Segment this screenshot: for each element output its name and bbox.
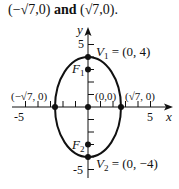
- y-tick-label-neg5: -5: [73, 163, 83, 177]
- v1-label: V1 = (0, 4): [96, 44, 150, 61]
- vertex-v2-point: [85, 154, 91, 160]
- origin-label: (0,0): [95, 90, 116, 103]
- focus-f2-point: [85, 142, 91, 148]
- left-vertex-label: (−√7, 0): [11, 90, 47, 103]
- y-tick-label-5: 5: [78, 37, 84, 51]
- left-vertex-point: [52, 104, 58, 110]
- x-tick-label-5: 5: [147, 110, 153, 124]
- ellipse-graph: y x 5 -5 -5 5 V1 = (0, 4) V2 = (0, −4) F…: [0, 0, 179, 189]
- f2-label: F2: [71, 137, 84, 154]
- f1-label: F1: [71, 61, 84, 78]
- v2-label: V2 = (0, −4): [96, 156, 158, 173]
- vertex-v1-point: [85, 54, 91, 60]
- right-vertex-label: (√7, 0): [125, 90, 155, 103]
- focus-f1-point: [85, 67, 91, 73]
- x-tick-label-neg5: -5: [14, 110, 24, 124]
- origin-point: [85, 104, 91, 110]
- right-vertex-point: [118, 104, 124, 110]
- x-axis-label: x: [165, 109, 172, 124]
- y-axis-label: y: [75, 22, 83, 37]
